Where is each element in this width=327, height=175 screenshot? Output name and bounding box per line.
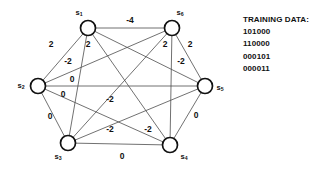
edge-weight-label: 0: [194, 110, 199, 120]
graph-edge: [75, 143, 162, 145]
edge-weight-label: 0: [120, 151, 125, 161]
nodes-layer: [31, 21, 213, 153]
graph-node-s3: [61, 136, 76, 151]
training-data-pattern: 101000: [243, 26, 309, 38]
edges-layer: [41, 28, 201, 145]
node-label-subscript: 5: [221, 86, 224, 92]
node-label-subscript: 3: [59, 155, 62, 161]
graph-node-s6: [165, 21, 180, 36]
edge-weight-label: -2: [64, 56, 72, 66]
edge-weight-label: 2: [86, 39, 91, 49]
edge-weight-label: 0: [70, 74, 75, 84]
graph-edge: [170, 35, 172, 137]
node-label-subscript: 6: [181, 11, 184, 17]
node-label-s6: s6: [176, 8, 183, 17]
edge-weight-label: -4: [126, 15, 134, 25]
graph-edge: [69, 35, 86, 135]
training-data-pattern: 110000: [243, 38, 309, 50]
training-data-panel: TRAINING DATA: 101000 110000 000101 0000…: [243, 14, 309, 75]
edge-weight-label: 2: [188, 39, 193, 49]
edge-weight-label: 0: [48, 111, 53, 121]
node-label-subscript: 4: [185, 155, 188, 161]
training-data-pattern: 000101: [243, 51, 309, 63]
node-label-s3: s3: [54, 152, 61, 161]
edge-weight-label: -2: [106, 124, 114, 134]
edge-weight-label: -2: [144, 124, 152, 134]
edge-weight-label: 2: [163, 39, 168, 49]
node-label-s2: s2: [17, 81, 24, 90]
diagram-canvas: -422-200022-2-2-2-200 s1s2s3s4s5s6 TRAIN…: [0, 0, 327, 175]
training-data-heading: TRAINING DATA:: [243, 14, 309, 26]
graph-node-s4: [163, 138, 178, 153]
edge-weight-label: -2: [177, 56, 185, 66]
node-label-s5: s5: [216, 83, 223, 92]
training-data-pattern: 000011: [243, 63, 309, 75]
graph-node-s1: [81, 21, 96, 36]
node-label-s1: s1: [75, 8, 82, 17]
graph-node-s5: [198, 79, 213, 94]
edge-weight-label: 2: [49, 39, 54, 49]
edge-weight-label: -2: [106, 94, 114, 104]
node-label-subscript: 2: [22, 84, 25, 90]
edge-weight-label: 0: [61, 89, 66, 99]
node-label-s4: s4: [180, 152, 187, 161]
node-label-subscript: 1: [80, 11, 83, 17]
graph-edge: [92, 34, 165, 139]
graph-node-s2: [31, 79, 46, 94]
